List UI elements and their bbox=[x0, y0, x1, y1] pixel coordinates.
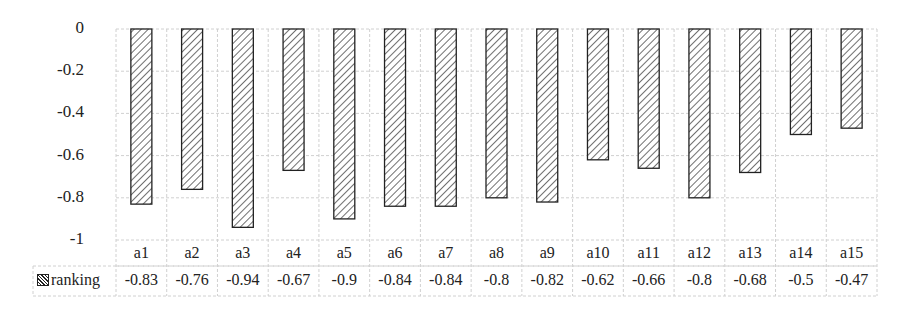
plot-area bbox=[0, 0, 907, 310]
bar-a5 bbox=[334, 29, 355, 219]
bar-a12 bbox=[689, 29, 710, 198]
hatch-swatch-icon bbox=[37, 274, 49, 286]
bar-a9 bbox=[537, 29, 558, 202]
data-table-value: -0.8 bbox=[674, 271, 725, 289]
category-label: a7 bbox=[420, 244, 471, 262]
legend-label: ranking bbox=[51, 271, 100, 289]
data-table-value: -0.84 bbox=[370, 271, 421, 289]
data-table-value: -0.76 bbox=[167, 271, 218, 289]
bar-a3 bbox=[232, 29, 253, 227]
y-tick-label: 0 bbox=[14, 18, 84, 38]
category-label: a6 bbox=[370, 244, 421, 262]
y-tick-label: -1 bbox=[14, 229, 84, 249]
y-tick-label: -0.8 bbox=[14, 187, 84, 207]
data-table-value: -0.83 bbox=[116, 271, 167, 289]
data-table-value: -0.84 bbox=[420, 271, 471, 289]
y-tick-label: -0.6 bbox=[14, 145, 84, 165]
data-table-value: -0.68 bbox=[725, 271, 776, 289]
data-table-value: -0.82 bbox=[522, 271, 573, 289]
legend-ranking: ranking bbox=[37, 271, 100, 289]
bar-a13 bbox=[740, 29, 761, 172]
bar-a11 bbox=[638, 29, 659, 168]
category-label: a2 bbox=[167, 244, 218, 262]
y-tick-label: -0.2 bbox=[14, 60, 84, 80]
category-label: a9 bbox=[522, 244, 573, 262]
category-label: a8 bbox=[471, 244, 522, 262]
category-label: a15 bbox=[826, 244, 877, 262]
category-label: a11 bbox=[623, 244, 674, 262]
data-table-value: -0.66 bbox=[623, 271, 674, 289]
data-table-value: -0.8 bbox=[471, 271, 522, 289]
category-label: a3 bbox=[217, 244, 268, 262]
category-label: a12 bbox=[674, 244, 725, 262]
bar-a14 bbox=[790, 29, 811, 135]
bar-a2 bbox=[182, 29, 203, 189]
bar-a7 bbox=[435, 29, 456, 206]
bar-a8 bbox=[486, 29, 507, 198]
bar-a6 bbox=[385, 29, 406, 206]
data-table-value: -0.5 bbox=[776, 271, 827, 289]
category-label: a13 bbox=[725, 244, 776, 262]
bar-a1 bbox=[131, 29, 152, 204]
category-label: a5 bbox=[319, 244, 370, 262]
data-table-value: -0.67 bbox=[268, 271, 319, 289]
category-label: a1 bbox=[116, 244, 167, 262]
data-table-value: -0.47 bbox=[826, 271, 877, 289]
category-label: a4 bbox=[268, 244, 319, 262]
y-tick-label: -0.4 bbox=[14, 102, 84, 122]
category-label: a10 bbox=[573, 244, 624, 262]
bar-a4 bbox=[283, 29, 304, 170]
category-label: a14 bbox=[776, 244, 827, 262]
bar-a10 bbox=[587, 29, 608, 160]
data-table-value: -0.94 bbox=[217, 271, 268, 289]
data-table-value: -0.62 bbox=[573, 271, 624, 289]
bar-a15 bbox=[841, 29, 862, 128]
bar-chart bbox=[0, 0, 907, 310]
data-table-value: -0.9 bbox=[319, 271, 370, 289]
